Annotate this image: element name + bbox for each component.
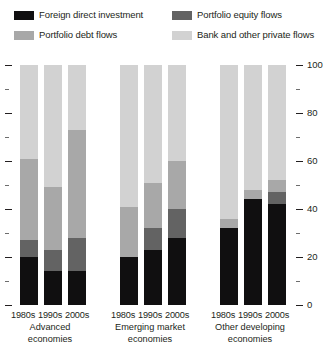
x-tick-label-1980s: 1980s <box>111 310 135 321</box>
x-group-label-line-0: Advanced <box>0 322 105 333</box>
bar-2000s <box>168 65 186 305</box>
bar-segment-portfolio-equity-flows <box>144 228 162 250</box>
bar-segment-foreign-direct-investment <box>68 271 86 305</box>
bar-segment-portfolio-debt-flows <box>144 183 162 229</box>
y-tick-major-40 <box>5 209 12 210</box>
plot-area <box>14 65 294 305</box>
x-group-label-line-1: economies <box>195 334 305 345</box>
x-group-label-line-1: economies <box>0 334 105 345</box>
x-tick-label-2000s: 2000s <box>165 310 189 321</box>
y-tick-label-0: 0 <box>307 300 312 309</box>
bar-segment-portfolio-equity-flows <box>68 238 86 272</box>
bar-segment-portfolio-debt-flows <box>244 190 262 200</box>
y-tick-major-80 <box>5 113 12 114</box>
bar-1990s <box>144 65 162 305</box>
bar-2000s <box>68 65 86 305</box>
bar-segment-bank-and-other-private-flows <box>144 65 162 183</box>
x-group-label-line-0: Other developing <box>195 322 305 333</box>
x-tick-label-2000s: 2000s <box>265 310 289 321</box>
y-tick-major-80 <box>296 113 303 114</box>
y-tick-minor-50 <box>296 185 300 186</box>
x-period-labels: 1980s1990s2000s <box>95 310 205 321</box>
bar-segment-bank-and-other-private-flows <box>120 65 138 207</box>
bar-1980s <box>120 65 138 305</box>
bar-segment-foreign-direct-investment <box>44 271 62 305</box>
x-period-labels: 1980s1990s2000s <box>195 310 305 321</box>
x-tick-label-1990s: 1990s <box>238 310 262 321</box>
x-tick-label-1990s: 1990s <box>138 310 162 321</box>
bar-segment-portfolio-debt-flows <box>44 187 62 249</box>
y-tick-major-40 <box>296 209 303 210</box>
bar-segment-portfolio-debt-flows <box>168 161 186 209</box>
bar-segment-foreign-direct-investment <box>120 257 138 305</box>
x-group-advanced-economies: 1980s1990s2000sAdvancedeconomies <box>0 310 105 345</box>
x-tick-label-1990s: 1990s <box>38 310 62 321</box>
x-tick-label-2000s: 2000s <box>65 310 89 321</box>
bar-group-emerging-market-economies <box>120 65 198 305</box>
bar-segment-portfolio-equity-flows <box>44 250 62 272</box>
y-tick-major-60 <box>5 161 12 162</box>
x-tick-label-1980s: 1980s <box>211 310 235 321</box>
bar-segment-bank-and-other-private-flows <box>68 65 86 130</box>
x-group-label-line-0: Emerging market <box>95 322 205 333</box>
y-tick-minor-10 <box>296 281 300 282</box>
bar-segment-bank-and-other-private-flows <box>44 65 62 187</box>
bar-1990s <box>244 65 262 305</box>
x-group-other-developing-economies: 1980s1990s2000sOther developingeconomies <box>195 310 305 345</box>
bar-segment-bank-and-other-private-flows <box>268 65 286 180</box>
y-tick-minor-90 <box>5 89 9 90</box>
bar-segment-foreign-direct-investment <box>220 228 238 305</box>
y-tick-major-100 <box>5 65 12 66</box>
y-tick-major-20 <box>296 257 303 258</box>
bar-group-advanced-economies <box>20 65 98 305</box>
bar-segment-bank-and-other-private-flows <box>168 65 186 161</box>
stacked-bar-chart: 020406080100 1980s1990s2000sAdvancedecon… <box>0 0 332 360</box>
bar-1990s <box>44 65 62 305</box>
x-period-labels: 1980s1990s2000s <box>0 310 105 321</box>
y-tick-label-40: 40 <box>307 204 318 213</box>
y-tick-major-60 <box>296 161 303 162</box>
bar-segment-portfolio-debt-flows <box>20 159 38 241</box>
bar-group-other-developing-economies <box>220 65 298 305</box>
bar-segment-portfolio-equity-flows <box>20 240 38 257</box>
bar-segment-foreign-direct-investment <box>168 238 186 305</box>
bar-segment-foreign-direct-investment <box>20 257 38 305</box>
bar-segment-portfolio-debt-flows <box>268 180 286 192</box>
y-tick-minor-70 <box>5 137 9 138</box>
y-tick-minor-50 <box>5 185 9 186</box>
y-tick-minor-30 <box>5 233 9 234</box>
bar-segment-foreign-direct-investment <box>144 250 162 305</box>
y-tick-minor-90 <box>296 89 300 90</box>
bar-segment-bank-and-other-private-flows <box>244 65 262 190</box>
y-tick-major-100 <box>296 65 303 66</box>
bar-segment-foreign-direct-investment <box>244 199 262 305</box>
x-group-label-line-1: economies <box>95 334 205 345</box>
y-tick-major-0 <box>5 305 12 306</box>
bar-1980s <box>20 65 38 305</box>
y-tick-label-20: 20 <box>307 252 318 261</box>
y-tick-label-100: 100 <box>307 60 323 69</box>
x-group-emerging-market-economies: 1980s1990s2000sEmerging marketeconomies <box>95 310 205 345</box>
y-tick-major-20 <box>5 257 12 258</box>
bar-segment-portfolio-debt-flows <box>68 130 86 238</box>
bar-segment-portfolio-equity-flows <box>168 209 186 238</box>
y-tick-minor-70 <box>296 137 300 138</box>
bar-segment-portfolio-debt-flows <box>220 219 238 229</box>
bar-2000s <box>268 65 286 305</box>
bar-segment-bank-and-other-private-flows <box>20 65 38 159</box>
y-tick-label-60: 60 <box>307 156 318 165</box>
bar-1980s <box>220 65 238 305</box>
y-tick-major-0 <box>296 305 303 306</box>
bar-segment-portfolio-debt-flows <box>120 207 138 257</box>
bar-segment-portfolio-equity-flows <box>268 192 286 204</box>
y-tick-label-80: 80 <box>307 108 318 117</box>
x-tick-label-1980s: 1980s <box>11 310 35 321</box>
bar-segment-bank-and-other-private-flows <box>220 65 238 219</box>
y-tick-minor-10 <box>5 281 9 282</box>
bar-segment-foreign-direct-investment <box>268 204 286 305</box>
y-tick-minor-30 <box>296 233 300 234</box>
